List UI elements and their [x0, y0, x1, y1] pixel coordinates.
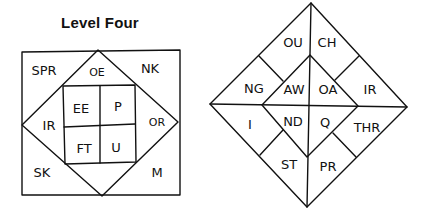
- right-connector-i-st: [260, 130, 283, 155]
- label-ee: EE: [73, 102, 89, 115]
- label-ir: IR: [43, 119, 56, 132]
- label-sk: SK: [34, 166, 51, 179]
- label-ft: FT: [76, 142, 91, 155]
- label-u: U: [111, 141, 121, 154]
- diagram-lines: [0, 0, 427, 216]
- label-thr: THR: [354, 121, 381, 134]
- label-p: P: [114, 100, 122, 113]
- label-st: ST: [281, 158, 297, 171]
- right-connector-ng-ou: [259, 56, 283, 81]
- label-aw: AW: [283, 83, 304, 96]
- left-diagram-title: Level Four: [48, 14, 152, 31]
- label-pr: PR: [320, 160, 337, 173]
- label-ch: CH: [318, 36, 337, 49]
- label-m: M: [151, 166, 162, 179]
- diagram-canvas: Level Four SPR NK OE IR OR SK M EE P FT …: [0, 0, 427, 216]
- label-oa: OA: [319, 83, 338, 96]
- label-i: I: [248, 118, 252, 131]
- label-ou: OU: [283, 36, 303, 49]
- right-connector-thr-pr: [333, 133, 356, 157]
- label-nk: NK: [141, 62, 159, 75]
- right-connector-ch-ir: [335, 56, 359, 80]
- label-spr: SPR: [31, 64, 56, 77]
- label-oe: OE: [89, 67, 105, 78]
- label-q: Q: [320, 116, 330, 129]
- label-nd: ND: [283, 115, 303, 128]
- label-ir-right: IR: [364, 83, 377, 96]
- label-or: OR: [149, 117, 165, 128]
- label-ng: NG: [244, 82, 264, 95]
